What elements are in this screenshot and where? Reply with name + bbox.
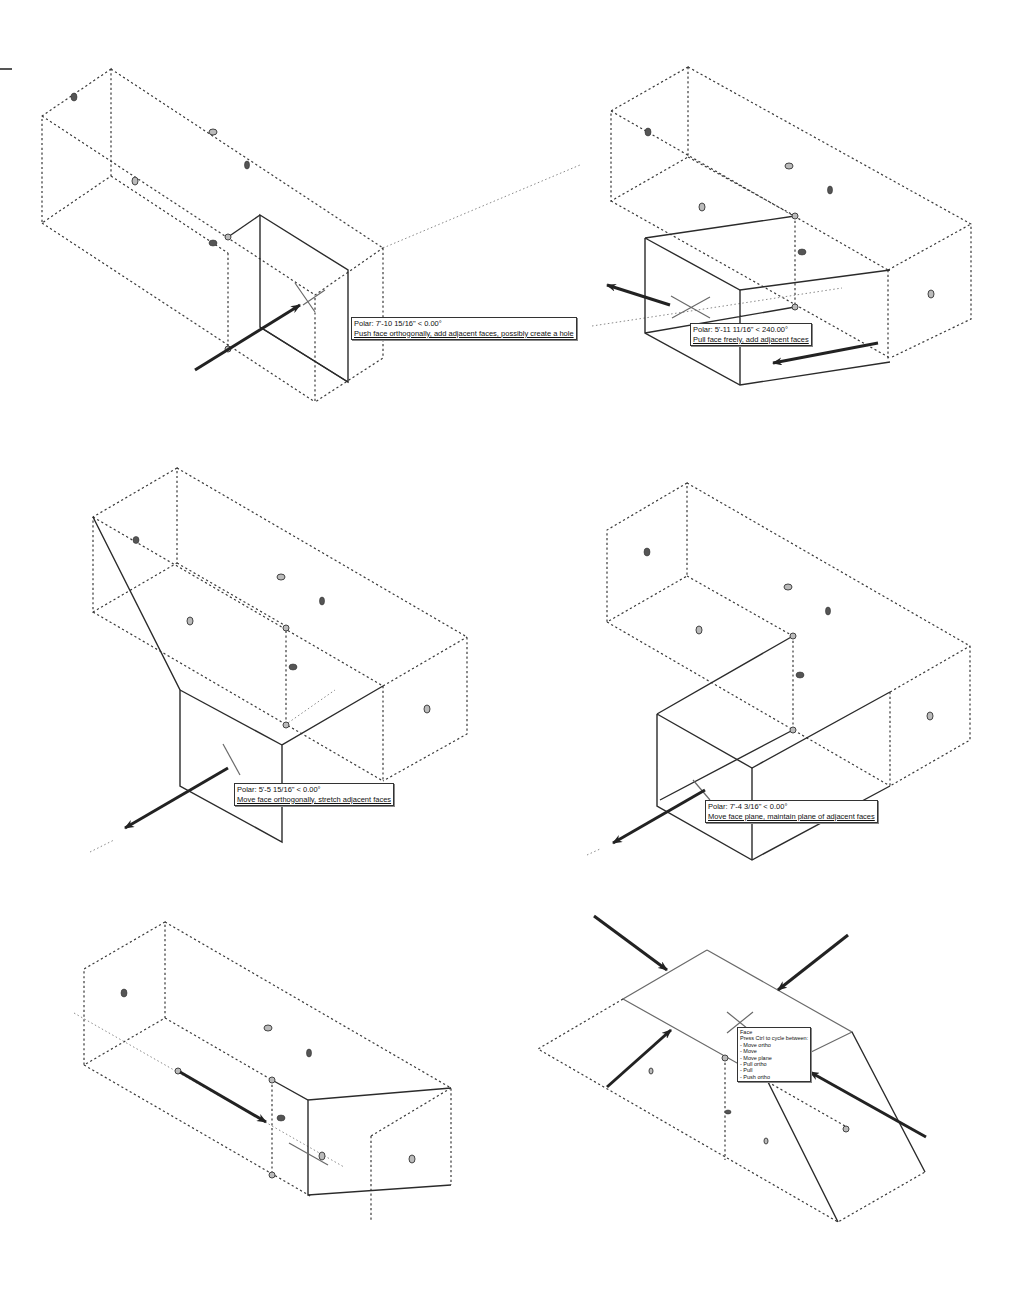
tooltip-push-ortho: Polar: 7'-10 15/16" < 0.00° Push face or… (351, 317, 577, 340)
tooltip-action: Move face plane, maintain plane of adjac… (708, 812, 875, 822)
tooltip-action: Push face orthogonally, add adjacent fac… (354, 329, 574, 339)
diagram-canvas (0, 0, 1025, 1304)
tooltip-polar: Polar: 7'-4 3/16" < 0.00° (708, 802, 875, 812)
tooltip-polar: Polar: 5'-11 11/16" < 240.00° (693, 325, 809, 335)
tooltip-action: Pull face freely, add adjacent faces (693, 335, 809, 345)
tooltip-move-ortho: Polar: 5'-5 15/16" < 0.00° Move face ort… (234, 783, 394, 806)
tooltip-polar: Polar: 7'-10 15/16" < 0.00° (354, 319, 574, 329)
cycle-option-push-ortho: - Push ortho (740, 1074, 808, 1080)
tooltip-action: Move face orthogonally, stretch adjacent… (237, 795, 391, 805)
tooltip-polar: Polar: 5'-5 15/16" < 0.00° (237, 785, 391, 795)
panel-face-cycle (538, 916, 926, 1222)
tooltip-move-plane: Polar: 7'-4 3/16" < 0.00° Move face plan… (705, 800, 878, 823)
tooltip-face-cycle: Face Press Ctrl to cycle between: - Move… (737, 1027, 811, 1082)
tooltip-subtitle: Press Ctrl to cycle between: (740, 1035, 808, 1041)
panel-move-edge (74, 922, 451, 1222)
tooltip-pull-free: Polar: 5'-11 11/16" < 240.00° Pull face … (690, 323, 812, 346)
panel-push-ortho (42, 69, 580, 402)
